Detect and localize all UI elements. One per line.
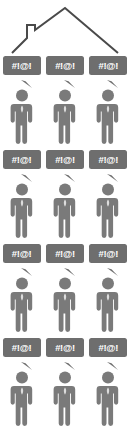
person-icon [93,182,123,240]
person-figure-cell [87,182,130,244]
speech-bubble-text: #!@! [12,61,32,71]
speech-bubble-text: #!@! [55,249,75,259]
speech-bubble-tail-icon [21,268,33,276]
speech-bubble: #!@! [46,150,84,173]
speech-bubble-text: #!@! [55,343,75,353]
person-icon [93,370,123,428]
speech-bubble-tail-icon [21,362,33,370]
speech-bubble-tail [64,356,76,364]
speech-bubble-tail [107,356,119,364]
speech-bubble-cell: #!@! [43,338,86,370]
speech-bubble-cell: #!@! [0,56,43,88]
person-icon [50,88,80,146]
person-figure-cell [43,88,86,150]
person-icon [93,88,123,146]
speech-bubble-tail-icon [107,174,119,182]
speech-bubble-body: #!@! [46,56,84,75]
speech-bubble-text: #!@! [12,249,32,259]
person-row [0,276,130,338]
speech-bubble-cell: #!@! [0,244,43,276]
speech-bubble-tail-icon [107,362,119,370]
speech-bubble-tail [64,168,76,176]
person-row [0,182,130,244]
speech-bubble: #!@! [46,244,84,267]
speech-bubble-cell: #!@! [87,338,130,370]
speech-bubble-cell: #!@! [43,244,86,276]
speech-bubble-row: #!@!#!@!#!@! [0,244,130,276]
speech-bubble-text: #!@! [98,249,118,259]
person-icon [7,88,37,146]
person-row [0,370,130,430]
speech-bubble-body: #!@! [89,244,127,263]
speech-bubble-tail-icon [107,268,119,276]
speech-bubble-cell: #!@! [43,150,86,182]
speech-bubble: #!@! [89,244,127,267]
speech-bubble-text: #!@! [12,155,32,165]
speech-bubble-body: #!@! [46,244,84,263]
speech-bubble: #!@! [3,150,41,173]
speech-bubble-row: #!@!#!@!#!@! [0,338,130,370]
person-icon [93,276,123,334]
speech-bubble: #!@! [89,56,127,79]
person-icon [50,370,80,428]
speech-bubble-body: #!@! [3,56,41,75]
person-figure-cell [87,88,130,150]
speech-bubble-text: #!@! [55,61,75,71]
speech-bubble-tail-icon [21,80,33,88]
speech-bubble-text: #!@! [98,343,118,353]
speech-bubble: #!@! [89,150,127,173]
speech-bubble: #!@! [3,338,41,361]
person-icon [7,276,37,334]
speech-bubble-cell: #!@! [87,244,130,276]
speech-bubble-body: #!@! [89,56,127,75]
speech-bubble: #!@! [3,244,41,267]
speech-bubble-cell: #!@! [0,338,43,370]
person-figure-cell [43,276,86,338]
speech-bubble-row: #!@!#!@!#!@! [0,150,130,182]
speech-bubble-tail [21,168,33,176]
speech-bubble: #!@! [46,338,84,361]
person-figure-cell [0,370,43,430]
person-figure-cell [87,370,130,430]
person-icon [7,182,37,240]
speech-bubble: #!@! [3,56,41,79]
speech-bubble-tail [21,262,33,270]
speech-bubble-tail-icon [107,80,119,88]
speech-bubble-cell: #!@! [0,150,43,182]
speech-bubble-tail [64,262,76,270]
speech-bubble-body: #!@! [3,338,41,357]
person-figure-cell [0,182,43,244]
speech-bubble-tail [107,168,119,176]
person-figure-cell [43,182,86,244]
speech-bubble-body: #!@! [3,244,41,263]
person-icon [7,370,37,428]
speech-bubble: #!@! [46,56,84,79]
speech-bubble-tail [64,74,76,82]
speech-bubble-tail-icon [64,174,76,182]
speech-bubble-body: #!@! [46,338,84,357]
speech-bubble-text: #!@! [12,343,32,353]
speech-bubble: #!@! [89,338,127,361]
person-figure-cell [0,88,43,150]
speech-bubble-tail [21,356,33,364]
person-row [0,88,130,150]
person-figure-cell [43,370,86,430]
speech-bubble-body: #!@! [3,150,41,169]
speech-bubble-tail-icon [64,80,76,88]
speech-bubble-tail-icon [21,174,33,182]
speech-bubble-tail [21,74,33,82]
person-figure-cell [0,276,43,338]
speech-bubble-body: #!@! [89,150,127,169]
person-icon [50,182,80,240]
speech-bubble-cell: #!@! [87,56,130,88]
house-roof-icon [0,0,130,58]
person-figure-cell [87,276,130,338]
speech-bubble-cell: #!@! [43,56,86,88]
speech-bubble-body: #!@! [89,338,127,357]
speech-bubble-body: #!@! [46,150,84,169]
speech-bubble-tail [107,262,119,270]
speech-bubble-text: #!@! [98,61,118,71]
speech-bubble-text: #!@! [98,155,118,165]
person-icon [50,276,80,334]
speech-bubble-tail [107,74,119,82]
